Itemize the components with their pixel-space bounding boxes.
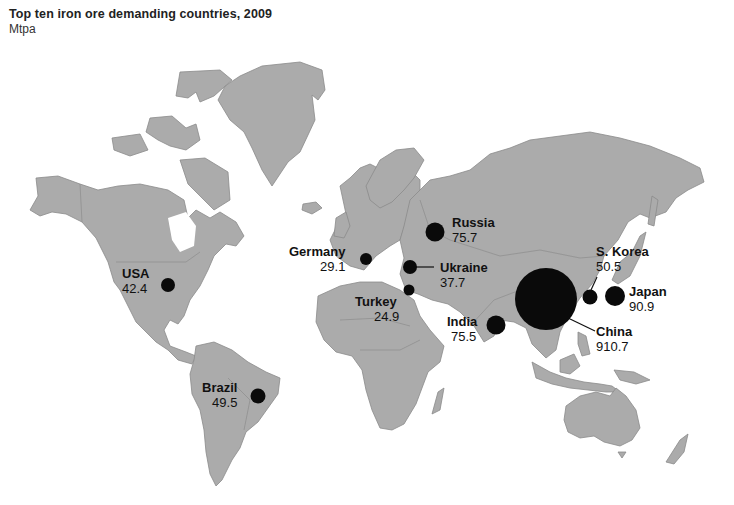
china-leader [568,318,595,331]
label-skorea-value: 50.5 [596,259,649,274]
label-brazil: Brazil 49.5 [202,380,237,410]
bubble-ukraine [403,260,417,274]
label-china-name: China [596,324,632,339]
borneo [560,354,580,374]
label-china-value: 910.7 [596,339,632,354]
arctic-islands-3 [112,134,148,156]
label-ukraine-name: Ukraine [440,260,488,275]
philippines [578,332,590,356]
label-usa: USA 42.4 [122,266,149,296]
label-japan: Japan 90.9 [629,284,667,314]
label-skorea-name: S. Korea [596,244,649,259]
new-guinea [614,370,650,384]
label-india-name: India [447,314,477,329]
label-russia-value: 75.7 [452,230,495,245]
australia [564,388,640,446]
south-america [190,342,280,486]
label-japan-name: Japan [629,284,667,299]
bubble-india [487,316,506,335]
tasmania [618,452,626,458]
label-india-value: 75.5 [447,329,477,344]
new-zealand [666,434,688,464]
bubble-turkey [404,285,415,296]
greenland [218,62,325,186]
label-germany-value: 29.1 [289,259,345,274]
madagascar [432,388,444,414]
label-turkey: Turkey 24.9 [355,294,399,324]
label-brazil-value: 49.5 [202,395,237,410]
iceland [302,202,322,214]
label-skorea: S. Korea 50.5 [596,244,649,274]
label-india: India 75.5 [447,314,477,344]
bubble-japan [605,286,625,306]
label-germany-name: Germany [289,244,345,259]
label-russia-name: Russia [452,215,495,230]
label-usa-name: USA [122,266,149,281]
label-usa-value: 42.4 [122,281,149,296]
arctic-islands-2 [146,116,200,150]
bubble-russia [426,223,445,242]
label-turkey-value: 24.9 [355,309,399,324]
label-germany: Germany 29.1 [289,244,345,274]
bubble-usa [161,278,175,292]
label-japan-value: 90.9 [629,299,667,314]
baffin [180,158,230,210]
label-ukraine-value: 37.7 [440,275,488,290]
label-brazil-name: Brazil [202,380,237,395]
label-china: China 910.7 [596,324,632,354]
label-russia: Russia 75.7 [452,215,495,245]
label-ukraine: Ukraine 37.7 [440,260,488,290]
bubble-china [515,268,577,330]
bubble-germany [360,253,372,265]
bubble-skorea [583,290,598,305]
label-turkey-name: Turkey [355,294,399,309]
bubble-brazil [251,389,266,404]
